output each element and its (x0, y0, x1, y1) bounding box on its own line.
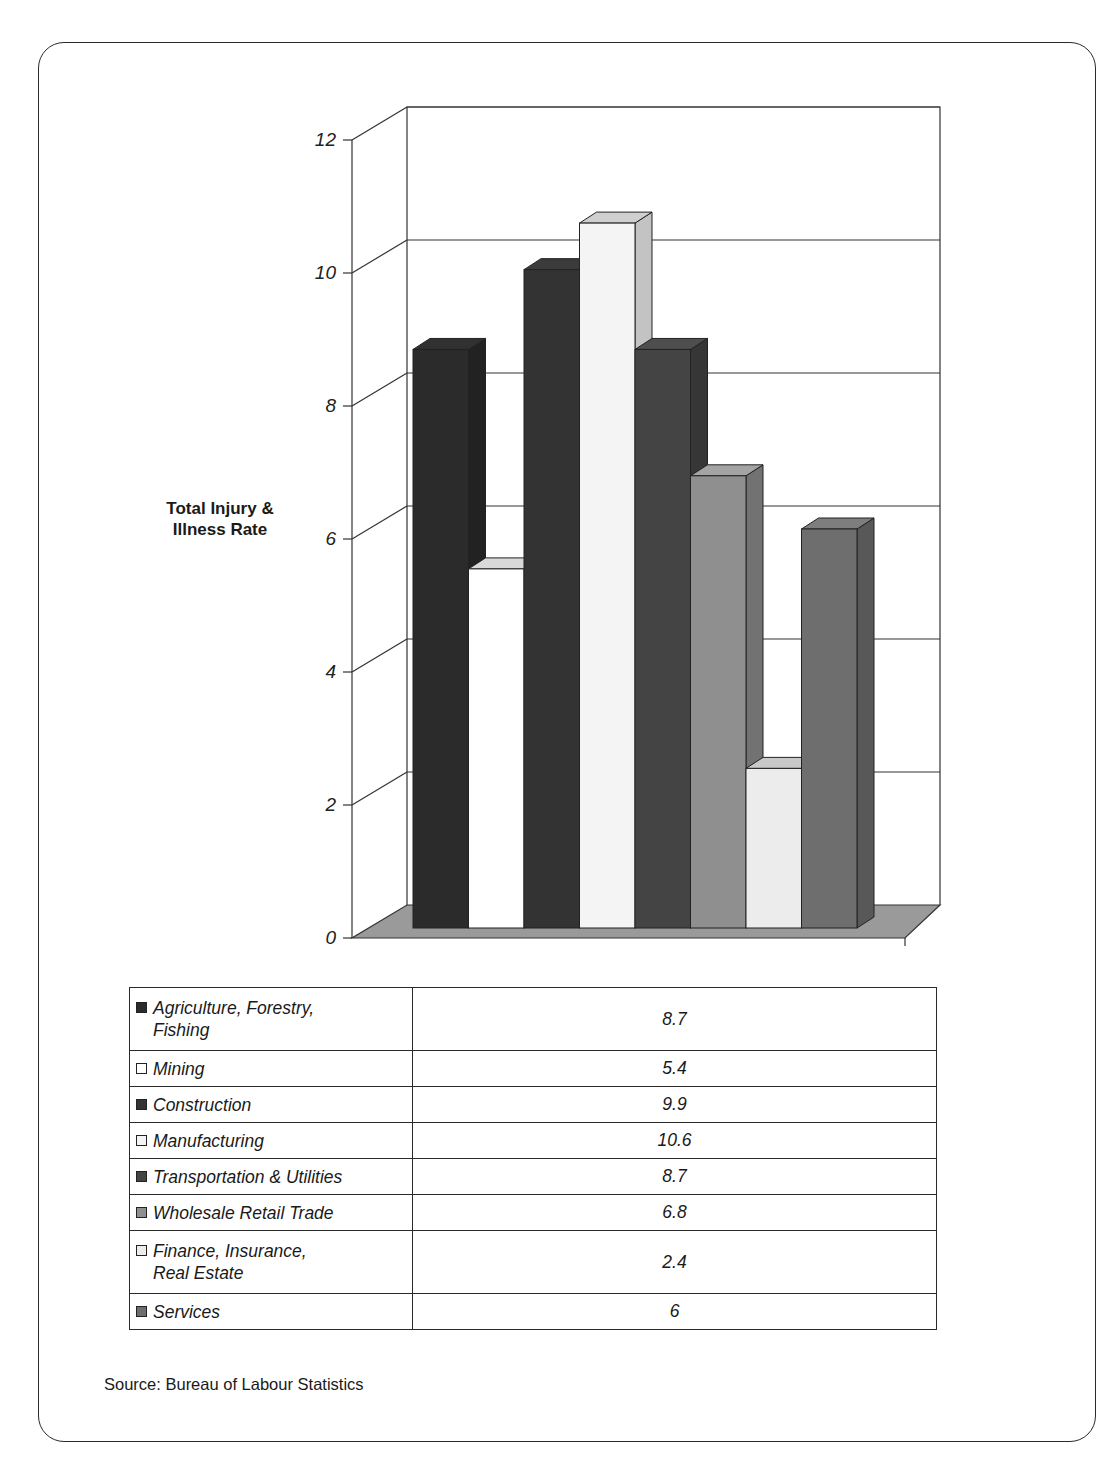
category-label: Finance, Insurance,Real Estate (153, 1240, 307, 1284)
category-label-line1: Construction (153, 1094, 251, 1116)
category-label-line2: Fishing (153, 1019, 314, 1041)
y-tick-label: 8 (325, 395, 336, 416)
y-tick-label: 4 (325, 661, 336, 682)
y-tick-label: 6 (325, 528, 336, 549)
table-row: Services6 (130, 1294, 937, 1330)
legend-swatch-icon (136, 1135, 147, 1146)
category-label-line1: Mining (153, 1058, 205, 1080)
y-axis-label: Total Injury & Illness Rate (140, 498, 300, 540)
category-cell: Agriculture, Forestry,Fishing (130, 988, 413, 1051)
category-label-line1: Finance, Insurance, (153, 1240, 307, 1262)
category-cell: Services (130, 1294, 413, 1330)
table-row: Wholesale Retail Trade6.8 (130, 1195, 937, 1231)
legend-swatch-icon (136, 1306, 147, 1317)
category-label-line1: Agriculture, Forestry, (153, 997, 314, 1019)
y-tick-label: 12 (315, 129, 337, 150)
legend-swatch-icon (136, 1207, 147, 1218)
category-cell: Construction (130, 1087, 413, 1123)
category-cell: Wholesale Retail Trade (130, 1195, 413, 1231)
table-row: Mining5.4 (130, 1051, 937, 1087)
category-label: Agriculture, Forestry,Fishing (153, 997, 314, 1041)
chart-bars (413, 212, 874, 928)
bar (802, 518, 875, 928)
table-row: Transportation & Utilities8.7 (130, 1159, 937, 1195)
y-axis-label-line1: Total Injury & (140, 498, 300, 519)
legend-swatch-icon (136, 1002, 147, 1013)
category-cell: Manufacturing (130, 1123, 413, 1159)
value-cell: 8.7 (413, 988, 937, 1051)
legend-swatch-icon (136, 1063, 147, 1074)
bar-chart-3d: 024681012 (0, 0, 1120, 980)
value-cell: 9.9 (413, 1087, 937, 1123)
category-label: Services (153, 1301, 220, 1323)
category-label-line1: Manufacturing (153, 1130, 264, 1152)
legend-swatch-icon (136, 1245, 147, 1256)
table-row: Construction9.9 (130, 1087, 937, 1123)
category-cell: Transportation & Utilities (130, 1159, 413, 1195)
category-label: Manufacturing (153, 1130, 264, 1152)
category-label: Construction (153, 1094, 251, 1116)
table-row: Finance, Insurance,Real Estate2.4 (130, 1231, 937, 1294)
value-cell: 10.6 (413, 1123, 937, 1159)
y-axis-ticks: 024681012 (315, 129, 352, 948)
value-cell: 2.4 (413, 1231, 937, 1294)
y-tick-label: 2 (324, 794, 336, 815)
category-label-line1: Wholesale Retail Trade (153, 1202, 334, 1224)
category-cell: Mining (130, 1051, 413, 1087)
y-tick-label: 10 (315, 262, 337, 283)
category-label-line2: Real Estate (153, 1262, 307, 1284)
value-cell: 6.8 (413, 1195, 937, 1231)
legend-swatch-icon (136, 1099, 147, 1110)
table-row: Manufacturing10.6 (130, 1123, 937, 1159)
category-cell: Finance, Insurance,Real Estate (130, 1231, 413, 1294)
source-note: Source: Bureau of Labour Statistics (104, 1375, 364, 1394)
y-axis-label-line2: Illness Rate (140, 519, 300, 540)
category-label: Transportation & Utilities (153, 1166, 342, 1188)
table-row: Agriculture, Forestry,Fishing8.7 (130, 988, 937, 1051)
y-tick-label: 0 (325, 927, 336, 948)
value-cell: 8.7 (413, 1159, 937, 1195)
data-table: Agriculture, Forestry,Fishing8.7Mining5.… (129, 987, 937, 1330)
category-label: Wholesale Retail Trade (153, 1202, 334, 1224)
category-label-line1: Services (153, 1301, 220, 1323)
value-cell: 5.4 (413, 1051, 937, 1087)
value-cell: 6 (413, 1294, 937, 1330)
category-label-line1: Transportation & Utilities (153, 1166, 342, 1188)
category-label: Mining (153, 1058, 205, 1080)
legend-swatch-icon (136, 1171, 147, 1182)
